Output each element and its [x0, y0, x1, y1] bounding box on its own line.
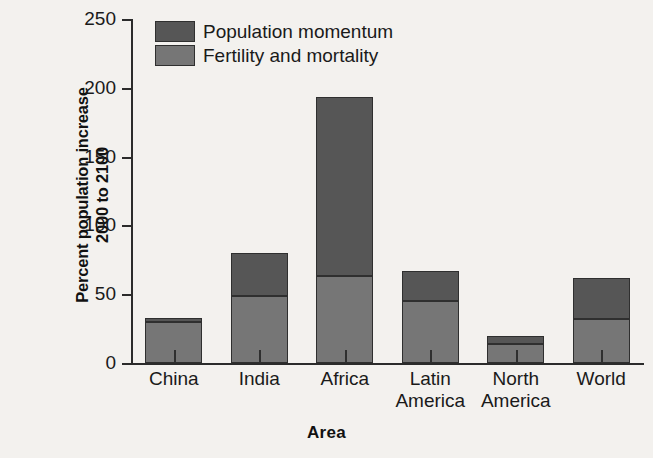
bar-baseline-notch	[430, 350, 432, 363]
bar-segment-momentum	[145, 318, 202, 322]
bar-group	[402, 271, 459, 363]
legend-swatch	[155, 21, 195, 42]
chart-legend: Population momentumFertility and mortali…	[155, 20, 455, 68]
bar-segment-momentum	[231, 253, 288, 296]
legend-label: Fertility and mortality	[203, 44, 378, 67]
y-tick-mark	[122, 225, 131, 227]
x-tick-label-line1: World	[577, 368, 626, 389]
bar-baseline-notch	[516, 350, 518, 363]
bar-baseline-notch	[345, 350, 347, 363]
bar-segment-momentum	[487, 336, 544, 344]
x-axis-line	[131, 363, 644, 365]
y-tick-label: 250	[46, 9, 116, 28]
y-tick-mark	[122, 157, 131, 159]
bar-baseline-notch	[601, 350, 603, 363]
x-tick-label: World	[541, 368, 653, 390]
bar-group	[145, 318, 202, 363]
legend-swatch	[155, 45, 195, 66]
y-axis-title-line1: Percent population increase	[73, 87, 91, 303]
chart-figure: Percent population increase 2000 to 2100…	[0, 0, 653, 458]
legend-label: Population momentum	[203, 20, 393, 43]
x-tick-label-line1: Latin	[410, 368, 451, 389]
bar-group	[573, 278, 630, 363]
y-tick-label: 50	[46, 284, 116, 303]
legend-item: Population momentum	[155, 20, 455, 44]
y-tick-label: 150	[46, 147, 116, 166]
bar-segment-momentum	[573, 278, 630, 319]
bar-group	[316, 97, 373, 363]
x-tick-label-line1: Africa	[320, 368, 369, 389]
bar-group	[231, 253, 288, 363]
legend-item: Fertility and mortality	[155, 44, 455, 68]
y-tick-mark	[122, 88, 131, 90]
y-tick-mark	[122, 294, 131, 296]
x-tick-label-line1: North	[493, 368, 539, 389]
bar-segment-momentum	[316, 97, 373, 276]
bar-baseline-notch	[259, 350, 261, 363]
x-axis-title: Area	[0, 423, 653, 443]
plot-area: 050100150200250	[131, 19, 644, 363]
x-tick-label-line1: India	[239, 368, 280, 389]
y-tick-mark	[122, 19, 131, 21]
y-tick-label: 0	[46, 353, 116, 372]
y-tick-label: 100	[46, 215, 116, 234]
bar-segment-momentum	[402, 271, 459, 301]
y-tick-label: 200	[46, 78, 116, 97]
x-tick-label-line2: America	[456, 390, 576, 412]
x-tick-label-line1: China	[149, 368, 199, 389]
y-tick-mark	[122, 363, 131, 365]
bar-baseline-notch	[174, 350, 176, 363]
bar-group	[487, 335, 544, 363]
